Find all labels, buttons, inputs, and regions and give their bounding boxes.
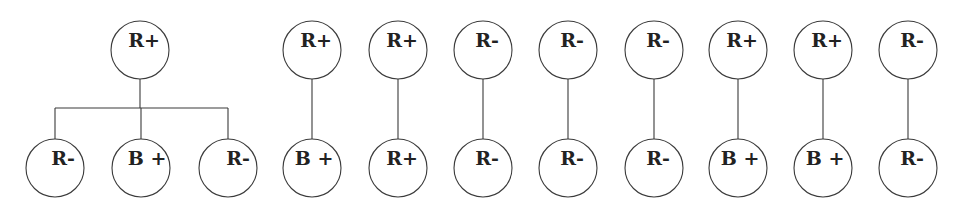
node-label: R+ [726, 29, 758, 51]
node-label: R- [560, 147, 584, 169]
pair-6-bottom-node: B + [709, 139, 767, 197]
pair-1-top-node: R+ [283, 21, 341, 79]
pair-4-bottom-node: R- [539, 139, 597, 197]
pair-8-bottom-node: R- [879, 139, 937, 197]
pair-8-top-node: R- [879, 21, 937, 79]
pair-5-top-node: R- [625, 21, 683, 79]
node-label: R+ [386, 147, 418, 169]
pair-2-bottom-node: R+ [369, 139, 427, 197]
pair-5-bottom-node: R- [625, 139, 683, 197]
node-label: B + [295, 147, 334, 169]
tree-child-node-3: R- [199, 139, 257, 197]
tree-diagram: R+R-B +R-R+B +R+R+R-R-R-R-R-R-R+B +R+B +… [0, 0, 965, 209]
node-label: R- [226, 147, 250, 169]
diagram-canvas: R+R-B +R-R+B +R+R+R-R-R-R-R-R-R+B +R+B +… [0, 0, 965, 209]
pair-2-top-node: R+ [369, 21, 427, 79]
pair-6-top-node: R+ [709, 21, 767, 79]
node-label: R- [560, 29, 584, 51]
node-label: R- [51, 147, 75, 169]
tree-child-node-2: B + [112, 139, 170, 197]
node-label: R- [475, 147, 499, 169]
node-label: R+ [386, 29, 418, 51]
node-label: R- [900, 147, 924, 169]
node-label: R+ [300, 29, 332, 51]
tree-child-node-1: R- [26, 139, 84, 197]
node-label: R+ [128, 29, 160, 51]
node-label: R- [646, 29, 670, 51]
pair-1-bottom-node: B + [283, 139, 341, 197]
pair-3-top-node: R- [454, 21, 512, 79]
node-label: R- [900, 29, 924, 51]
node-label: R- [475, 29, 499, 51]
node-label: R+ [811, 29, 843, 51]
pair-3-bottom-node: R- [454, 139, 512, 197]
node-label: B + [806, 147, 845, 169]
pair-7-top-node: R+ [794, 21, 852, 79]
tree-root-node: R+ [111, 21, 169, 79]
pair-7-bottom-node: B + [794, 139, 852, 197]
node-label: B + [721, 147, 760, 169]
pair-4-top-node: R- [539, 21, 597, 79]
node-label: B + [128, 147, 167, 169]
node-label: R- [646, 147, 670, 169]
